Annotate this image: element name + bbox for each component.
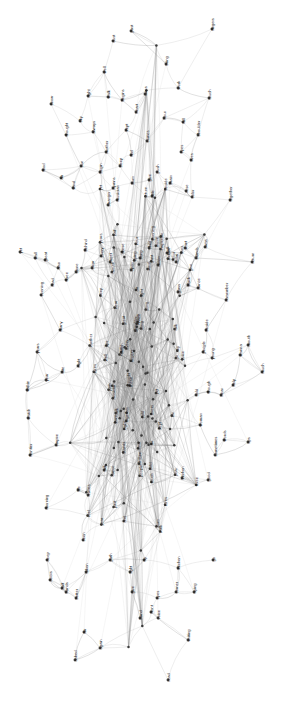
svg-text:dust: dust — [111, 34, 116, 43]
svg-text:walk: walk — [158, 524, 163, 533]
svg-text:stands: stands — [121, 442, 126, 454]
svg-text:bring: bring — [164, 56, 169, 66]
svg-text:night: night — [76, 358, 81, 368]
svg-text:child: child — [147, 240, 152, 249]
svg-text:arms: arms — [203, 239, 208, 248]
svg-text:kitchen: kitchen — [180, 466, 185, 480]
svg-text:better: better — [74, 588, 79, 599]
svg-text:hear: hear — [113, 300, 118, 309]
svg-text:though: though — [206, 380, 211, 393]
svg-text:fingers: fingers — [210, 18, 215, 30]
svg-text:work: work — [176, 80, 181, 90]
svg-text:late: late — [60, 366, 65, 373]
svg-text:song: song — [138, 250, 143, 260]
svg-text:kitchen: kitchen — [137, 451, 142, 465]
svg-text:years: years — [98, 233, 103, 243]
svg-text:stranger: stranger — [106, 191, 111, 207]
svg-text:lips: lips — [246, 437, 251, 443]
svg-text:cold: cold — [140, 410, 145, 418]
svg-text:lives: lives — [189, 153, 194, 161]
svg-text:evening: evening — [39, 281, 44, 296]
svg-text:yet: yet — [18, 247, 23, 253]
svg-text:young: young — [210, 348, 215, 360]
svg-text:cold: cold — [194, 388, 199, 396]
svg-text:read: read — [50, 277, 55, 286]
svg-text:remember: remember — [224, 282, 229, 301]
svg-text:well: well — [103, 354, 108, 361]
svg-text:mother: mother — [88, 333, 93, 346]
svg-text:frontier: frontier — [28, 443, 33, 456]
svg-text:feel: feel — [129, 150, 134, 157]
svg-text:clear: clear — [90, 260, 95, 270]
svg-text:street: street — [108, 252, 113, 263]
svg-text:seen: seen — [81, 532, 86, 542]
svg-text:yet: yet — [154, 388, 159, 394]
svg-text:voice: voice — [136, 313, 141, 323]
svg-text:moon: moon — [156, 255, 161, 266]
svg-text:far: far — [82, 628, 87, 633]
svg-text:turns: turns — [163, 497, 168, 506]
svg-text:touch: touch — [207, 89, 212, 100]
svg-text:trying: trying — [192, 583, 197, 594]
svg-text:hands: hands — [64, 582, 69, 593]
svg-text:every: every — [99, 246, 104, 257]
svg-text:color: color — [190, 189, 195, 199]
svg-text:give: give — [188, 263, 193, 271]
svg-text:people: people — [201, 340, 206, 353]
svg-text:every: every — [124, 339, 129, 350]
svg-text:fall: fall — [181, 118, 186, 123]
svg-text:beside: beside — [163, 178, 168, 191]
svg-text:far: far — [170, 411, 175, 416]
svg-text:brain: brain — [168, 175, 173, 185]
svg-text:light: light — [128, 565, 133, 573]
svg-text:rose: rose — [184, 184, 189, 193]
svg-text:past: past — [149, 254, 154, 263]
svg-text:wall: wall — [33, 252, 38, 259]
svg-text:song: song — [144, 301, 149, 311]
svg-text:lives: lives — [179, 246, 184, 254]
svg-text:return: return — [144, 186, 149, 197]
svg-text:kitchen: kitchen — [176, 556, 181, 570]
svg-text:three: three — [64, 271, 69, 281]
svg-text:black: black — [186, 276, 191, 287]
svg-text:little: little — [150, 189, 155, 197]
svg-text:give: give — [130, 585, 135, 593]
svg-text:feel: feel — [86, 510, 91, 517]
svg-text:thought: thought — [64, 122, 69, 137]
svg-text:eyes: eyes — [179, 145, 184, 154]
svg-text:leaves: leaves — [86, 485, 91, 497]
svg-text:glass: glass — [176, 284, 181, 294]
svg-text:dance: dance — [196, 278, 201, 290]
svg-text:also: also — [56, 261, 61, 269]
svg-text:stone: stone — [74, 263, 79, 274]
svg-text:behind: behind — [83, 238, 88, 251]
svg-text:writing: writing — [186, 629, 191, 642]
svg-text:always: always — [91, 121, 96, 134]
svg-text:taken: taken — [84, 563, 89, 574]
svg-text:deep: deep — [99, 287, 104, 297]
svg-text:give: give — [147, 173, 152, 181]
svg-text:mouth: mouth — [246, 334, 251, 346]
svg-text:morning: morning — [44, 494, 49, 510]
svg-text:touch: touch — [150, 472, 155, 483]
svg-text:evening: evening — [151, 225, 156, 240]
svg-text:empire: empire — [54, 433, 59, 446]
svg-text:empire: empire — [159, 237, 164, 250]
svg-text:life: life — [76, 485, 81, 491]
svg-text:mother: mother — [104, 140, 109, 153]
svg-text:again: again — [98, 639, 103, 650]
svg-text:sky: sky — [78, 115, 83, 122]
svg-text:go: go — [211, 556, 216, 561]
svg-text:begins: begins — [120, 89, 125, 101]
svg-text:heart: heart — [134, 103, 139, 113]
svg-text:corner: corner — [174, 581, 179, 593]
svg-text:woman: woman — [198, 412, 203, 426]
svg-text:much: much — [260, 363, 265, 374]
svg-text:return: return — [250, 252, 255, 263]
svg-text:open: open — [129, 262, 134, 272]
svg-text:hour: hour — [134, 236, 139, 245]
svg-text:push: push — [155, 164, 160, 174]
svg-text:burn: burn — [130, 175, 135, 184]
svg-text:lips: lips — [104, 341, 109, 347]
svg-text:room: room — [118, 346, 123, 356]
